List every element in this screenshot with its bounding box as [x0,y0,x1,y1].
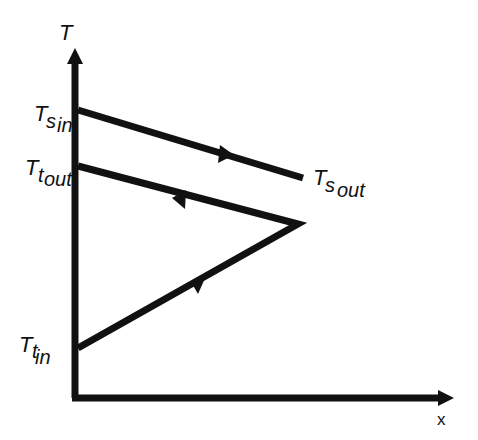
temperature-diagram: T x T s in T t out T s out T t in [0,0,478,440]
x-axis-label: x [437,410,446,429]
svg-text:s: s [325,174,335,196]
y-axis-label: T [59,20,74,45]
svg-text:out: out [44,168,73,190]
label-ts-in: T s in [34,101,73,136]
shell-fluid-line [78,110,303,178]
svg-text:out: out [337,179,366,201]
svg-text:in: in [57,114,73,136]
label-tt-out: T t out [25,155,73,190]
x-axis [72,390,454,406]
tube-fluid-line [78,166,298,348]
label-tt-in: T t in [19,332,51,368]
arrow-right-icon [218,145,234,163]
svg-text:s: s [46,110,56,132]
svg-text:in: in [35,346,51,368]
label-ts-out: T s out [313,165,366,201]
y-axis-arrow-icon [67,48,83,64]
x-axis-arrow-icon [438,390,454,406]
